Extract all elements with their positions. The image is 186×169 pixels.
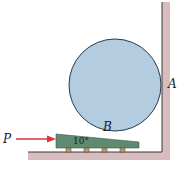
floor-shadow: [28, 152, 170, 160]
force-label: P: [2, 132, 12, 146]
contact-label-a: A: [167, 77, 177, 91]
wedge-angle-label: 10°: [73, 136, 89, 146]
rollers: [66, 148, 125, 152]
force-arrow: [16, 136, 56, 143]
wedge: [56, 134, 139, 148]
wedge-cylinder-diagram: P A B 10°: [0, 0, 186, 169]
cylinder: [69, 39, 161, 131]
contact-label-b: B: [102, 120, 112, 134]
